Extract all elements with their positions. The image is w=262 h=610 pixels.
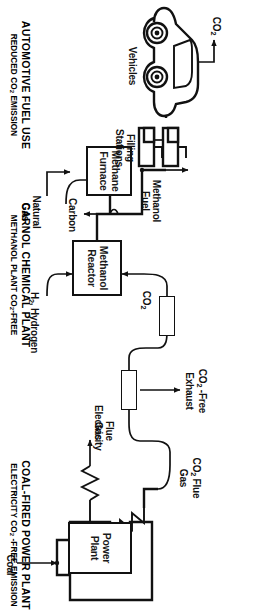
caption-main: COAL-FIRED POWER PLANT [20, 460, 32, 610]
fuel-pump-icon-2 [139, 128, 162, 166]
stream-label-methanol-fuel: MethanolFuel [140, 176, 162, 226]
scrubber-upper-box[interactable] [159, 296, 175, 336]
caption-automotive-fuel-use: AUTOMOTIVE FUEL USE REDUCED CO2 EMISSION [9, 10, 32, 160]
stream-label-co2-flue-gas: CO2 FlueGas [178, 450, 202, 506]
methanol-reactor-box[interactable]: MethanolReactor [72, 240, 122, 296]
caption-sub: ELECTRICITY CO2 -FREE EMISSION [9, 460, 18, 610]
power-plant-label: PowerPlant [88, 533, 112, 564]
caption-main: CARNOL CHEMICAL PLANT [20, 190, 32, 360]
caption-sub: REDUCED CO2 EMISSION [9, 10, 18, 160]
scrubber-lower-box[interactable] [121, 370, 137, 410]
vehicles-label: Vehicles [127, 42, 138, 90]
caption-main: AUTOMOTIVE FUEL USE [20, 10, 32, 160]
filling-stations-label: FillingStations [114, 124, 136, 172]
caption-carnol-chemical-plant: CARNOL CHEMICAL PLANT METHANOL PLANT CO2… [9, 190, 32, 360]
fuel-pump-icon-1 [163, 128, 186, 166]
stream-label-carbon: Carbon [67, 196, 78, 234]
car-icon [144, 8, 198, 116]
caption-coal-fired-power-plant: COAL-FIRED POWER PLANT ELECTRICITY CO2 -… [9, 460, 32, 610]
power-plant-box[interactable]: PowerPlant [68, 522, 132, 574]
methanol-reactor-label: MethanolReactor [85, 246, 109, 290]
stream-label-co2-to-reactor: CO2 [139, 286, 152, 314]
stream-label-co2-free-exhaust: CO2 -FreeExhaust [184, 362, 208, 420]
stream-label-flue-gas: FlueGas [93, 414, 115, 448]
stream-label-co2-emission: CO2 [209, 12, 222, 40]
caption-sub: METHANOL PLANT CO2-FREE [9, 190, 18, 360]
